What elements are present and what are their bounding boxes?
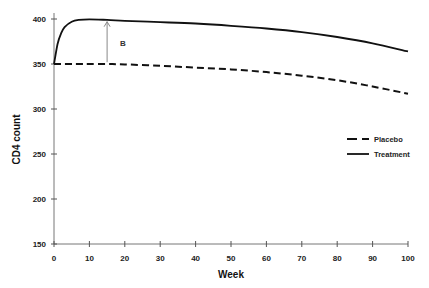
x-axis-title: Week (218, 269, 244, 280)
x-tick-label: 60 (262, 254, 271, 263)
y-tick-label: 250 (33, 150, 47, 159)
x-tick-label: 80 (333, 254, 342, 263)
x-tick-label: 0 (52, 254, 57, 263)
x-tick-label: 70 (297, 254, 306, 263)
cd4-line-chart: 1502002503003504000102030405060708090100… (0, 0, 429, 288)
legend-label-placebo: Placebo (374, 135, 403, 144)
series-line-placebo (54, 64, 408, 94)
x-tick-label: 40 (191, 254, 200, 263)
legend-label-treatment: Treatment (374, 150, 410, 159)
x-tick-label: 30 (156, 254, 165, 263)
y-tick-label: 150 (33, 240, 47, 249)
x-tick-label: 90 (368, 254, 377, 263)
x-tick-label: 10 (85, 254, 94, 263)
y-tick-label: 200 (33, 195, 47, 204)
annotation-label: B (120, 39, 126, 48)
y-tick-label: 350 (33, 60, 47, 69)
x-tick-label: 20 (120, 254, 129, 263)
y-axis-title: CD4 count (11, 114, 22, 165)
legend: PlaceboTreatment (347, 135, 410, 159)
x-tick-label: 100 (401, 254, 415, 263)
y-tick-label: 400 (33, 15, 47, 24)
x-tick-label: 50 (227, 254, 236, 263)
axes: 1502002503003504000102030405060708090100… (11, 13, 415, 280)
annotations: B (104, 22, 126, 63)
y-tick-label: 300 (33, 105, 47, 114)
